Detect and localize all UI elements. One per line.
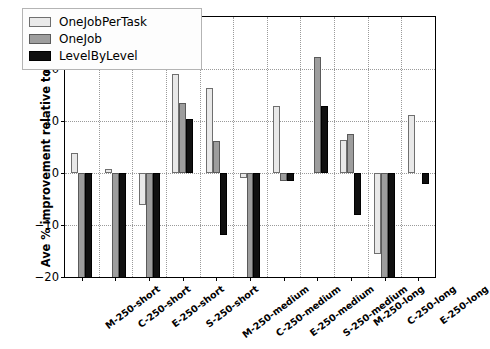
bar-onejobpertask-e-250-medium [273, 106, 280, 173]
bar-levelbylevel-c-250-short [119, 173, 126, 277]
bar-levelbylevel-e-250-medium [287, 173, 294, 181]
bar-onejob-e-250-short [146, 173, 153, 277]
x-tick-mark [284, 277, 285, 281]
y-tick-mark [61, 121, 65, 122]
legend-label-onejobpertask: OneJobPerTask [59, 15, 147, 29]
x-tick-mark [82, 277, 83, 281]
bar-onejob-c-250-medium [247, 173, 254, 277]
legend-label-levelbylevel: LevelByLevel [59, 49, 138, 63]
bar-onejob-e-250-medium [280, 173, 287, 181]
gridline-vertical [401, 17, 402, 277]
legend-entry-onejob: OneJob [29, 30, 195, 47]
bar-levelbylevel-e-250-short [153, 173, 160, 277]
x-tick-mark [385, 277, 386, 281]
black-swatch-icon [29, 51, 51, 61]
legend-entry-levelbylevel: LevelByLevel [29, 47, 195, 64]
x-tick-mark [115, 277, 116, 281]
bar-levelbylevel-m-250-medium [220, 173, 227, 235]
bar-onejob-m-250-medium [213, 141, 220, 173]
bar-onejobpertask-c-250-long [374, 173, 381, 254]
x-tick-mark [351, 277, 352, 281]
y-tick-label: −20 [19, 270, 59, 284]
x-tick-mark [250, 277, 251, 281]
y-tick-label: 0 [19, 166, 59, 180]
bar-onejobpertask-m-250-short [71, 153, 78, 173]
bar-levelbylevel-m-250-long [354, 173, 361, 215]
gridline-vertical [267, 17, 268, 277]
gridline-vertical [334, 17, 335, 277]
y-tick-label: −10 [19, 218, 59, 232]
bar-onejobpertask-e-250-short [139, 173, 146, 205]
y-tick-mark [61, 277, 65, 278]
bar-levelbylevel-m-250-short [85, 173, 92, 277]
bar-onejobpertask-c-250-short [105, 169, 112, 173]
bar-onejobpertask-s-250-short [172, 74, 179, 173]
y-tick-mark [61, 225, 65, 226]
gridline-vertical [368, 17, 369, 277]
bar-levelbylevel-s-250-short [186, 119, 193, 173]
medium-gray-swatch-icon [29, 34, 51, 44]
chart-legend: OneJobPerTask OneJob LevelByLevel [22, 8, 202, 70]
legend-entry-onejobpertask: OneJobPerTask [29, 13, 195, 30]
y-tick-label: 10 [19, 114, 59, 128]
bar-onejob-c-250-short [112, 173, 119, 277]
bar-levelbylevel-s-250-medium [321, 106, 328, 173]
gridline-vertical [233, 17, 234, 277]
bar-levelbylevel-c-250-long [388, 173, 395, 277]
bar-onejobpertask-m-250-medium [206, 88, 213, 173]
x-tick-mark [183, 277, 184, 281]
bar-onejobpertask-c-250-medium [240, 173, 247, 178]
bar-onejobpertask-e-250-long [408, 115, 415, 173]
bar-onejob-m-250-short [78, 173, 85, 277]
legend-label-onejob: OneJob [59, 32, 102, 46]
light-gray-swatch-icon [29, 17, 51, 27]
gridline-vertical [300, 17, 301, 277]
x-tick-mark [418, 277, 419, 281]
x-tick-mark [216, 277, 217, 281]
y-tick-mark [61, 173, 65, 174]
x-tick-mark [317, 277, 318, 281]
bar-onejob-m-250-long [347, 134, 354, 173]
bar-levelbylevel-c-250-medium [253, 173, 260, 277]
bar-onejob-c-250-long [381, 173, 388, 277]
gridline-horizontal [65, 121, 435, 122]
bar-levelbylevel-e-250-long [422, 173, 429, 184]
bar-onejob-s-250-short [179, 103, 186, 173]
bar-onejob-s-250-medium [314, 57, 321, 173]
x-tick-mark [149, 277, 150, 281]
bar-onejobpertask-m-250-long [340, 140, 347, 173]
